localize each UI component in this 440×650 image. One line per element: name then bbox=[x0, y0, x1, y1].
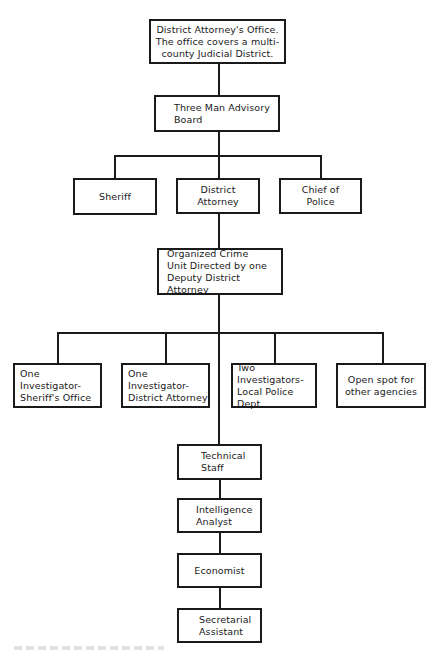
connector-da-to-unit bbox=[218, 213, 220, 248]
node-da-office: District Attorney's Office. The office c… bbox=[149, 19, 286, 64]
node-label: Two Investigators- Local Police Dept. bbox=[237, 362, 315, 410]
node-label: District Attorney's Office. The office c… bbox=[156, 24, 279, 60]
node-investigator-sheriff: One Investigator- Sheriff's Office bbox=[13, 363, 102, 408]
node-sheriff: Sheriff bbox=[73, 178, 157, 215]
connector-to-inv-sheriff bbox=[57, 332, 59, 363]
connector-unit-to-staff bbox=[218, 294, 220, 444]
connector-to-open-spot bbox=[382, 332, 384, 363]
node-intelligence-analyst: Intelligence Analyst bbox=[177, 498, 262, 533]
node-investigators-police: Two Investigators- Local Police Dept. bbox=[231, 363, 317, 408]
node-label: District Attorney bbox=[197, 184, 239, 208]
node-label: Intelligence Analyst bbox=[196, 504, 252, 528]
node-label: Three Man Advisory Board bbox=[174, 102, 270, 126]
node-label: Sheriff bbox=[99, 191, 131, 203]
node-open-spot: Open spot for other agencies bbox=[336, 363, 426, 408]
connector-economist-to-secretarial bbox=[219, 587, 221, 608]
node-label: Chief of Police bbox=[302, 184, 339, 208]
connector-to-chief bbox=[320, 155, 322, 178]
node-advisory-board: Three Man Advisory Board bbox=[154, 95, 280, 132]
node-label: Organized Crime Unit Directed by one Dep… bbox=[167, 248, 281, 296]
cropped-caption bbox=[14, 646, 164, 650]
connector-tier4-horizontal bbox=[57, 332, 383, 334]
node-economist: Economist bbox=[177, 553, 262, 588]
node-organized-crime-unit: Organized Crime Unit Directed by one Dep… bbox=[157, 248, 283, 295]
node-label: Open spot for other agencies bbox=[345, 374, 417, 398]
connector-to-sheriff bbox=[114, 155, 116, 178]
node-chief-of-police: Chief of Police bbox=[279, 178, 362, 214]
connector-to-inv-da bbox=[165, 332, 167, 363]
connector-analyst-to-economist bbox=[219, 532, 221, 553]
node-technical-staff: Technical Staff bbox=[177, 444, 262, 480]
node-label: One Investigator- District Attorney bbox=[128, 368, 208, 404]
node-district-attorney: District Attorney bbox=[176, 178, 260, 214]
node-label: Economist bbox=[194, 565, 244, 577]
connector-office-to-board bbox=[218, 63, 220, 95]
node-label: Secretarial Assistant bbox=[199, 614, 251, 638]
node-secretarial-assistant: Secretarial Assistant bbox=[177, 608, 262, 643]
connector-board-down bbox=[218, 131, 220, 155]
connector-staff-to-analyst bbox=[219, 479, 221, 498]
connector-to-da bbox=[218, 155, 220, 178]
connector-to-inv-police bbox=[274, 332, 276, 363]
node-label: Technical Staff bbox=[201, 450, 246, 474]
node-investigator-da: One Investigator- District Attorney bbox=[121, 363, 210, 408]
node-label: One Investigator- Sheriff's Office bbox=[20, 368, 100, 404]
